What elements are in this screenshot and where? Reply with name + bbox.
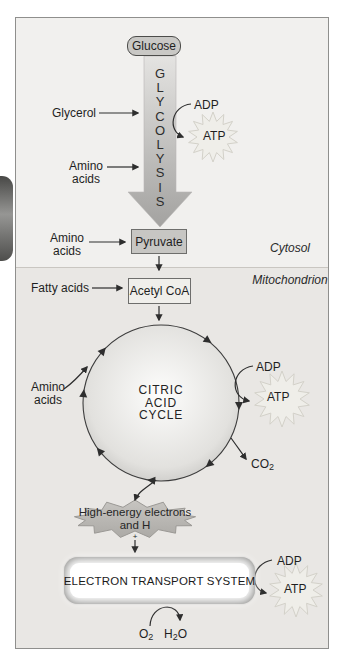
amino-acids-line1: Amino — [62, 160, 110, 173]
o2-base: O — [139, 627, 148, 641]
co2-base: CO — [251, 457, 269, 471]
page-edge-tab — [0, 176, 13, 261]
h2o-label: H2O — [164, 628, 187, 644]
cycle-to-burst-curve — [135, 480, 156, 500]
adp-atp-curve-ets — [255, 560, 272, 593]
glycolysis-letter: O — [151, 124, 169, 138]
glycerol-label: Glycerol — [52, 107, 96, 120]
glycolysis-letter: G — [151, 67, 169, 81]
glycolysis-letter: I — [151, 181, 169, 195]
h2o-pre: H — [164, 627, 173, 641]
acetyl-coa-label: Acetyl CoA — [130, 284, 189, 298]
high-energy-burst-label: High-energy electrons and H+ — [75, 506, 195, 546]
amino-acids-line2: acids — [62, 173, 110, 186]
ets-label: ELECTRON TRANSPORT SYSTEM — [64, 557, 255, 604]
amino-acids-line1: Amino — [45, 232, 89, 245]
mitochondrion-region-label: Mitochondrion — [252, 274, 328, 287]
atp-label-ets: ATP — [284, 583, 306, 596]
amino-acids-cycle-label: Amino acids — [24, 381, 72, 406]
citric-acid-cycle-label: CITRIC ACID CYCLE — [111, 384, 211, 422]
metabolism-figure: Glucose G L Y C O L Y S I S Glycerol Ami… — [0, 0, 344, 662]
amino-acids-glycolysis-label: Amino acids — [62, 160, 110, 185]
high-energy-line2-base: and H — [75, 519, 195, 532]
fatty-acids-label: Fatty acids — [31, 282, 89, 295]
electron-transport-system-node: ELECTRON TRANSPORT SYSTEM — [64, 557, 255, 604]
high-energy-line1: High-energy electrons — [75, 506, 195, 519]
glycolysis-letter: S — [151, 166, 169, 180]
co2-release-curve — [231, 438, 246, 459]
h-plus-sup: + — [133, 532, 138, 541]
co2-label: CO2 — [251, 458, 274, 474]
amino-acids-line2: acids — [24, 394, 72, 407]
amino-acids-line2: acids — [45, 245, 89, 258]
adp-label-ets: ADP — [277, 555, 302, 568]
amino-acids-pyruvate-label: Amino acids — [45, 232, 89, 257]
atp-label-cycle: ATP — [267, 391, 289, 404]
cycle-line1: CITRIC — [111, 384, 211, 397]
glucose-label: Glucose — [132, 39, 176, 53]
glycolysis-label: G L Y C O L Y S I S — [151, 67, 169, 209]
pyruvate-label: Pyruvate — [135, 235, 182, 249]
amino-acids-line1: Amino — [24, 381, 72, 394]
glycolysis-letter: C — [151, 110, 169, 124]
glycolysis-letter: Y — [151, 95, 169, 109]
glycolysis-letter: Y — [151, 152, 169, 166]
atp-label-glycolysis: ATP — [203, 130, 225, 143]
acetyl-coa-node: Acetyl CoA — [128, 278, 191, 304]
o2-to-h2o-curve — [150, 607, 180, 626]
glycolysis-letter: L — [151, 138, 169, 152]
pyruvate-node: Pyruvate — [131, 229, 187, 254]
o2-sub: 2 — [148, 632, 153, 642]
cycle-line3: CYCLE — [111, 409, 211, 422]
cytosol-region-label: Cytosol — [258, 242, 322, 255]
co2-sub: 2 — [269, 462, 274, 472]
h2o-post: O — [178, 627, 187, 641]
glycolysis-letter: L — [151, 81, 169, 95]
o2-label: O2 — [139, 628, 153, 644]
adp-label-cycle: ADP — [256, 361, 281, 374]
high-energy-line2: and H+ — [75, 519, 195, 546]
glycolysis-letter: S — [151, 195, 169, 209]
adp-label-glycolysis: ADP — [194, 99, 219, 112]
glucose-node: Glucose — [127, 36, 181, 56]
